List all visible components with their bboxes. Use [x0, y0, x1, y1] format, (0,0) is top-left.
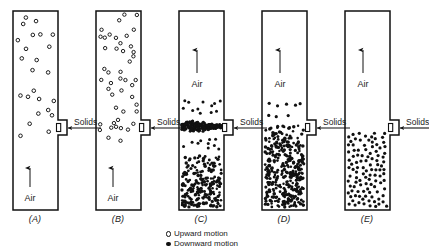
particle-downward — [206, 177, 209, 180]
particle-upward — [114, 125, 117, 128]
particle-upward — [31, 68, 35, 72]
particle-downward — [295, 143, 298, 146]
particle-upward — [50, 114, 54, 118]
particle-downward — [217, 148, 220, 151]
particle-downward — [193, 204, 196, 207]
particle-downward — [359, 159, 362, 162]
particle-downward — [368, 173, 371, 176]
particle-downward — [184, 156, 187, 159]
particle-downward — [361, 154, 364, 157]
particle-downward — [267, 183, 271, 187]
particle-downward — [290, 199, 293, 202]
particle-downward — [274, 156, 277, 159]
particle-upward — [24, 16, 28, 20]
particle-downward — [283, 148, 287, 152]
particle-downward — [285, 201, 288, 204]
particle-upward — [123, 13, 126, 16]
particle-downward — [207, 147, 210, 150]
particle-downward — [370, 168, 373, 171]
particle-upward — [46, 108, 50, 112]
particle-upward — [52, 99, 56, 103]
particle-upward — [135, 103, 138, 106]
particle-downward — [358, 179, 361, 182]
vessel-outline-E — [345, 11, 399, 210]
particle-downward — [293, 166, 297, 170]
particle-downward — [374, 168, 377, 171]
particle-upward — [115, 47, 118, 50]
particle-downward — [217, 203, 219, 205]
particle-downward — [219, 183, 222, 186]
particle-downward — [383, 145, 386, 148]
particle-downward — [356, 166, 359, 169]
particle-downward — [203, 127, 206, 130]
particle-upward — [124, 78, 127, 81]
particle-downward — [188, 159, 190, 161]
legend-item-upward: Upward motion — [163, 229, 313, 239]
particle-downward — [284, 175, 287, 178]
particle-downward — [365, 182, 368, 185]
particles-B — [98, 13, 138, 143]
particle-downward — [279, 184, 281, 186]
particle-downward — [190, 198, 193, 201]
particle-downward — [378, 174, 381, 177]
particle-downward — [268, 141, 271, 144]
air-label-D: Air — [266, 79, 294, 89]
particle-downward — [376, 163, 379, 166]
particle-downward — [288, 126, 291, 129]
particle-downward — [199, 112, 202, 115]
particle-downward — [197, 188, 200, 191]
particle-downward — [285, 140, 288, 143]
particle-downward — [286, 180, 288, 182]
particle-downward — [276, 104, 279, 107]
particle-downward — [373, 132, 376, 135]
particle-downward — [347, 135, 350, 138]
particle-upward — [103, 67, 106, 70]
particle-upward — [119, 70, 122, 73]
particle-downward — [273, 176, 276, 179]
particle-downward — [299, 178, 302, 181]
particle-downward — [203, 195, 206, 198]
particle-downward — [188, 202, 191, 205]
particle-upward — [107, 87, 110, 90]
particle-downward — [187, 125, 190, 128]
particle-downward — [373, 200, 376, 203]
particles-A — [16, 16, 56, 138]
particle-upward — [128, 60, 131, 63]
particle-downward — [301, 172, 304, 175]
particle-upward — [132, 55, 135, 58]
panel-caption-A: (A) — [21, 214, 49, 224]
particle-downward — [281, 141, 283, 143]
particle-downward — [347, 150, 350, 153]
particle-downward — [183, 200, 186, 203]
particle-downward — [378, 146, 381, 149]
particle-downward — [352, 143, 355, 146]
particle-downward — [212, 177, 215, 180]
particle-downward — [188, 120, 191, 123]
particle-downward — [289, 158, 292, 161]
particle-downward — [300, 168, 303, 171]
particle-downward — [191, 164, 194, 167]
particle-downward — [354, 181, 357, 184]
particle-downward — [347, 179, 350, 182]
panel-C — [179, 11, 267, 210]
particle-downward — [278, 205, 281, 208]
particle-downward — [297, 125, 299, 127]
particle-upward — [103, 46, 106, 49]
particle-downward — [272, 138, 275, 141]
particle-downward — [220, 199, 223, 202]
particle-downward — [271, 154, 274, 157]
particle-upward — [109, 81, 112, 84]
particle-downward — [299, 189, 302, 192]
particle-downward — [213, 102, 216, 105]
particle-downward — [379, 181, 382, 184]
particle-downward — [279, 190, 282, 193]
particle-downward — [283, 203, 286, 206]
particle-downward — [280, 165, 283, 168]
particle-downward — [357, 201, 360, 204]
particle-downward — [368, 191, 371, 194]
particle-downward — [376, 190, 379, 193]
particle-downward — [382, 141, 385, 144]
particle-downward — [351, 199, 354, 202]
vessel-outline-A — [13, 11, 67, 210]
particle-upward — [114, 36, 117, 39]
